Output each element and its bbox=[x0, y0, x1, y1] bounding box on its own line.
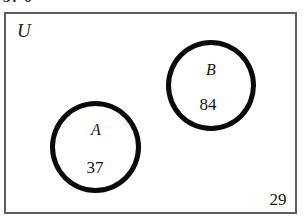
set-count-b: 84 bbox=[188, 96, 228, 113]
cropped-figure-number: 3. 6 bbox=[3, 0, 49, 5]
set-circle-a bbox=[50, 101, 141, 193]
cropped-figure-number-text: 3. 6 bbox=[3, 0, 49, 5]
universal-set-rectangle bbox=[4, 12, 297, 214]
set-count-a: 37 bbox=[75, 159, 115, 176]
set-circle-b bbox=[166, 40, 256, 131]
outside-region-count: 29 bbox=[263, 191, 293, 208]
set-label-b: B bbox=[196, 62, 226, 78]
set-label-a: A bbox=[81, 122, 111, 138]
universal-set-label: U bbox=[17, 21, 31, 40]
